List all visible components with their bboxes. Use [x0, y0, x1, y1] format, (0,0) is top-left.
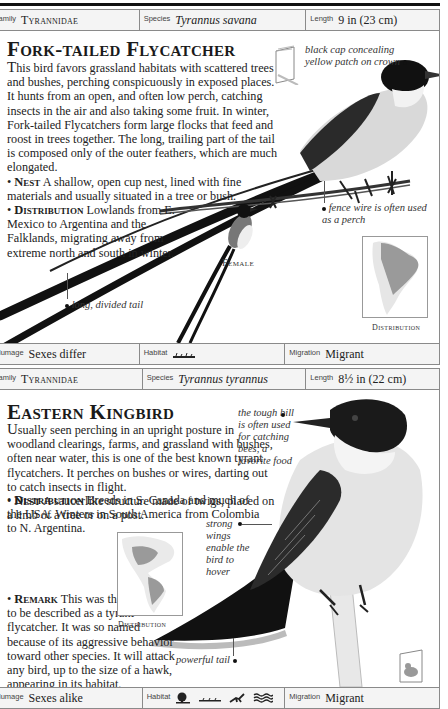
- length-value: 8½ in (22 cm): [338, 372, 406, 387]
- section-text-nest: A shallow, open cup nest, lined with fin…: [7, 175, 241, 203]
- family-value: Tyrannidae: [21, 372, 78, 387]
- wetland-icon: [253, 693, 273, 703]
- species-value: Tyrannus savana: [175, 13, 256, 28]
- book-size-icon: [272, 45, 302, 85]
- page-top-rule: [0, 3, 440, 6]
- species-label: Species: [144, 14, 171, 23]
- leader-line: [67, 273, 68, 299]
- family-cell: Family Tyrannidae: [0, 10, 140, 30]
- entry2-info-bar-top: Family Tyrannidae Species Tyrannus tyran…: [0, 368, 440, 390]
- migration-label: Migration: [289, 692, 320, 701]
- bullet: •: [7, 203, 11, 217]
- map-caption: Distribution: [118, 620, 166, 629]
- entry1-info-bar-bottom: Plumage Sexes differ Habitat Migration M…: [0, 343, 440, 365]
- migration-value: Migrant: [325, 691, 364, 706]
- annotation-wings: strong wings enable the bird to hover: [206, 518, 252, 578]
- leader-dot: [322, 207, 326, 211]
- bullet: •: [7, 493, 11, 507]
- annotation-fence-wire: fence wire is often used as a perch: [322, 202, 432, 226]
- leader-dot: [281, 413, 285, 417]
- annotation-tail: long, divided tail: [65, 299, 143, 311]
- bullet: •: [7, 592, 11, 606]
- species-cell: Species Tyrannus savana: [140, 10, 307, 30]
- leader-dot: [65, 304, 69, 308]
- female-caption: Female: [222, 257, 254, 268]
- entry1-info-bar-top: Family Tyrannidae Species Tyrannus savan…: [0, 9, 440, 31]
- leader-dot: [233, 659, 237, 663]
- family-label: Family: [0, 373, 16, 382]
- length-value: 9 in (23 cm): [338, 13, 397, 28]
- habitat-label: Habitat: [144, 348, 168, 357]
- plumage-cell: Plumage Sexes alike: [0, 688, 143, 708]
- drop-cap: U: [7, 421, 18, 437]
- habitat-cell: Habitat: [140, 344, 286, 364]
- family-value: Tyrannidae: [21, 13, 78, 28]
- species-description: This bird favors grassland habitats with…: [7, 60, 279, 260]
- plumage-cell: Plumage Sexes differ: [0, 344, 140, 364]
- section-heading-distribution: Distribution: [14, 493, 83, 507]
- grassland-icon: [172, 349, 196, 359]
- americas-map-icon: [118, 533, 182, 615]
- south-america-map-icon: [363, 237, 427, 317]
- family-cell: Family Tyrannidae: [0, 369, 143, 389]
- book-size-icon: [398, 648, 428, 684]
- farmland-icon: [229, 692, 245, 704]
- family-label: Family: [0, 14, 16, 23]
- leader-line: [324, 181, 325, 203]
- length-label: Length: [310, 373, 333, 382]
- intro-text: his bird favors grassland habitats with …: [7, 61, 277, 174]
- migration-value: Migrant: [325, 347, 364, 362]
- entry1-panel: Fork-tailed Flycatcher This bird favors …: [0, 31, 440, 343]
- grassland-icon: [199, 693, 221, 703]
- bullet: •: [7, 175, 11, 189]
- plumage-value: Sexes alike: [29, 691, 83, 706]
- migration-label: Migration: [289, 348, 320, 357]
- annotation-tail: powerful tail: [176, 654, 237, 666]
- habitat-label: Habitat: [147, 692, 171, 701]
- plumage-value: Sexes differ: [29, 347, 86, 362]
- length-cell: Length 8½ in (22 cm): [306, 369, 439, 389]
- species-value: Tyrannus tyrannus: [178, 372, 267, 387]
- intro-text: sually seen perching in an upright postu…: [7, 423, 273, 494]
- drop-cap: T: [7, 59, 16, 75]
- species-label: Species: [147, 373, 174, 382]
- species-cell: Species Tyrannus tyrannus: [143, 369, 307, 389]
- annotation-black-cap: black cap concealing yellow patch on cro…: [305, 44, 415, 68]
- distribution-map: [362, 236, 428, 318]
- annotation-bill: the tough bill is often used for catchin…: [238, 407, 294, 467]
- plumage-label: Plumage: [0, 692, 24, 701]
- migration-cell: Migration Migrant: [285, 688, 439, 708]
- species-title: Fork-tailed Flycatcher: [7, 37, 235, 62]
- leader-line: [233, 638, 234, 656]
- length-label: Length: [310, 14, 333, 23]
- section-heading-distribution: Distribution: [14, 203, 83, 217]
- section-heading-nest: Nest: [14, 175, 40, 189]
- entry2-panel: Eastern Kingbird Usually seen perching i…: [0, 390, 440, 687]
- map-caption: Distribution: [372, 323, 420, 332]
- leader-dot: [403, 61, 407, 65]
- section-heading-remark: Remark: [14, 592, 58, 606]
- leader-line: [242, 524, 272, 525]
- length-cell: Length 9 in (23 cm): [306, 10, 439, 30]
- distribution-map: [117, 532, 183, 616]
- entry2-info-bar-bottom: Plumage Sexes alike Habitat Migration Mi…: [0, 687, 440, 709]
- woodland-icon: [175, 692, 191, 704]
- plumage-label: Plumage: [0, 348, 24, 357]
- migration-cell: Migration Migrant: [285, 344, 439, 364]
- habitat-cell: Habitat: [143, 688, 286, 708]
